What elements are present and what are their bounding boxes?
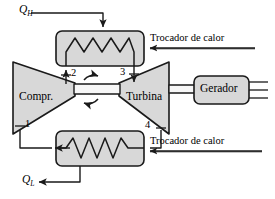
- compressor-label: Compr.: [19, 91, 53, 103]
- qh-label: QH: [19, 4, 33, 18]
- state-point-2-label: 2: [71, 68, 76, 79]
- heat-exchanger-top-label: Trocador de calor: [150, 33, 224, 44]
- line-state-1: [20, 130, 52, 148]
- state-point-1-label: 1: [25, 119, 30, 130]
- cycle-diagram: QH QL Trocador de calor Trocador de calo…: [0, 0, 275, 199]
- turbine-label: Turbina: [126, 91, 162, 103]
- rotation-arrow-icon-bottom: [84, 99, 98, 104]
- generator-label: Gerador: [200, 83, 238, 95]
- ql-flow-line: [39, 166, 80, 182]
- ql-label: QL: [22, 174, 34, 188]
- qh-flow-line: [31, 13, 103, 27]
- state-point-4-label: 4: [145, 120, 150, 131]
- state-point-3-label: 3: [120, 67, 125, 78]
- heat-exchanger-bottom-label: Trocador de calor: [150, 136, 224, 147]
- generator-shaft: [169, 85, 195, 93]
- rotation-arrow-icon-top: [84, 75, 98, 80]
- shaft: [74, 84, 120, 94]
